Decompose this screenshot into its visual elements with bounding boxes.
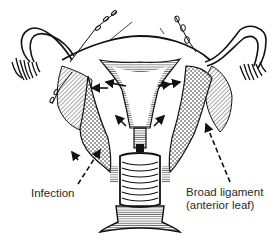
arrow-right-lower-icon [154,116,164,126]
arrow-left-lower-icon [116,116,126,126]
right-infected-parametrium [169,66,212,172]
infection-leader-line [78,150,100,184]
arrow-left-bottom-icon [72,152,78,160]
cervix [134,128,146,152]
vagina [100,153,180,232]
left-fimbriae-icon [12,58,40,80]
infection-label: Infection [31,187,74,200]
broad-ligament-label-line1: Broad ligament [186,186,263,199]
broad-ligament-label-line2: (anterior leaf) [186,199,263,212]
broad-ligament-label: Broad ligament (anterior leaf) [186,186,263,212]
broad-ligament-leader-line [206,124,230,182]
right-fimbriae-icon [240,62,266,80]
